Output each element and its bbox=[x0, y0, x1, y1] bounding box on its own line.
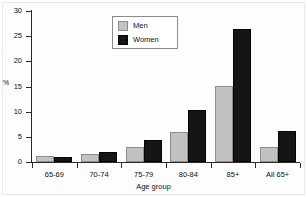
y-tick-label: 0 bbox=[0, 158, 22, 166]
legend-swatch-women-icon bbox=[118, 35, 128, 45]
x-tick-mark bbox=[32, 163, 33, 168]
x-tick-label: 80-84 bbox=[166, 170, 211, 179]
bar-men-all-65- bbox=[260, 147, 278, 162]
x-tick-label: 75-79 bbox=[121, 170, 166, 179]
x-tick-mark bbox=[166, 163, 167, 168]
y-tick-label: 30 bbox=[0, 7, 22, 15]
bar-men-65-69 bbox=[36, 156, 54, 162]
x-tick-mark bbox=[211, 163, 212, 168]
legend: Men Women bbox=[112, 16, 178, 49]
x-tick-mark bbox=[77, 163, 78, 168]
legend-label-men: Men bbox=[133, 21, 148, 31]
bar-men-85- bbox=[215, 86, 233, 163]
x-tick-label: 70-74 bbox=[77, 170, 122, 179]
legend-label-women: Women bbox=[133, 35, 159, 45]
y-tick-label: 10 bbox=[0, 108, 22, 116]
x-tick-label: 85+ bbox=[211, 170, 256, 179]
y-tick-label: 15 bbox=[0, 83, 22, 91]
bar-women-80-84 bbox=[188, 110, 206, 162]
bar-men-80-84 bbox=[170, 132, 188, 162]
chart-figure: % Age group 051015202530 65-6970-7475-79… bbox=[0, 0, 307, 197]
bar-men-70-74 bbox=[81, 154, 99, 162]
x-tick-label: All 65+ bbox=[255, 170, 300, 179]
x-axis-label: Age group bbox=[0, 182, 307, 191]
bar-women-70-74 bbox=[99, 152, 117, 162]
x-tick-mark bbox=[121, 163, 122, 168]
x-tick-mark bbox=[255, 163, 256, 168]
x-tick-label: 65-69 bbox=[32, 170, 77, 179]
y-tick-label: 25 bbox=[0, 32, 22, 40]
bar-women-85- bbox=[233, 29, 251, 162]
y-tick-label: 20 bbox=[0, 57, 22, 65]
bar-women-all-65- bbox=[278, 131, 296, 162]
bar-men-75-79 bbox=[126, 147, 144, 162]
x-tick-mark bbox=[300, 163, 301, 168]
y-tick-label: 5 bbox=[0, 133, 22, 141]
bar-women-65-69 bbox=[54, 157, 72, 162]
legend-swatch-men-icon bbox=[118, 21, 128, 31]
bar-women-75-79 bbox=[144, 140, 162, 162]
